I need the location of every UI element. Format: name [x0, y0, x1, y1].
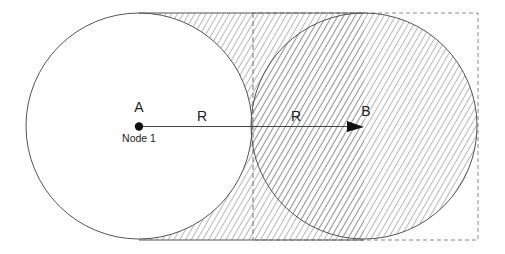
coverage-diagram: A Node 1 R R B [0, 0, 505, 254]
radius-label-2: R [291, 108, 301, 124]
node-a-label: A [134, 99, 144, 115]
radius-label-1: R [197, 108, 207, 124]
node-a-dot [135, 122, 143, 130]
node-b-label: B [361, 103, 370, 119]
node-a-sublabel: Node 1 [122, 132, 156, 144]
